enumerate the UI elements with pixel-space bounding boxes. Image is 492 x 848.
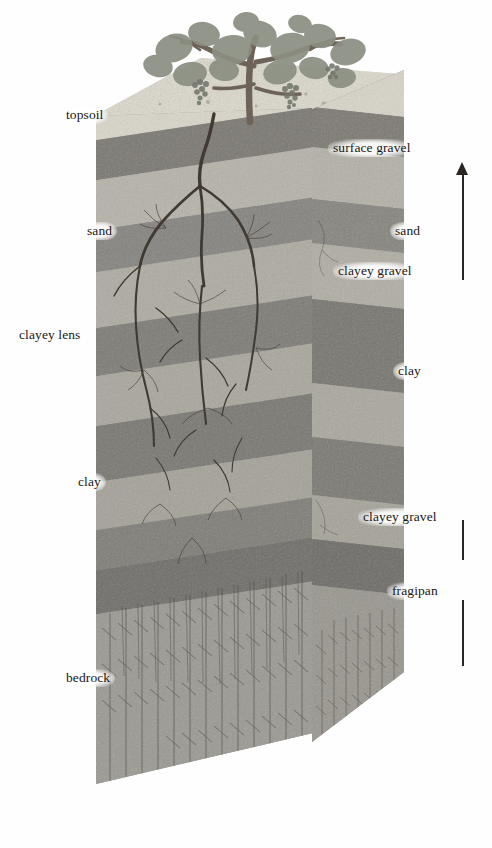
axis-line-lower — [462, 600, 464, 666]
side-face — [312, 70, 404, 770]
stratum-bedrock-side — [312, 584, 404, 770]
label-bedrock: bedrock — [61, 669, 115, 687]
label-sand-left: sand — [82, 222, 117, 240]
label-clayey-lens: clayey lens — [14, 326, 85, 344]
soil-profile-figure: topsoil sand clayey lens clay bedrock su… — [0, 0, 492, 848]
label-clayey-gravel-upper: clayey gravel — [333, 262, 417, 280]
axis-line-upper — [462, 174, 464, 280]
stratum-clay — [312, 298, 404, 394]
label-clay-left: clay — [73, 473, 106, 491]
label-fragipan: fragipan — [387, 582, 443, 600]
label-clay-right: clay — [393, 362, 426, 380]
label-clayey-gravel-lower: clayey gravel — [358, 508, 442, 526]
axis-line-middle — [462, 520, 464, 560]
front-face — [96, 108, 312, 784]
label-surface-gravel: surface gravel — [328, 139, 415, 157]
label-sand-right: sand — [390, 222, 425, 240]
front-stratum-bedrock — [96, 578, 312, 784]
label-topsoil: topsoil — [61, 106, 108, 124]
